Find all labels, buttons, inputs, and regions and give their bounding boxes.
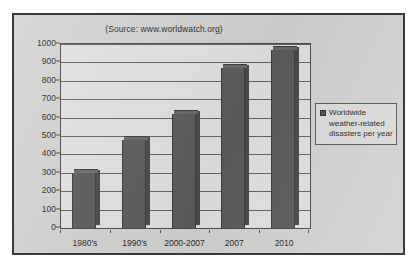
x-axis-tick-mark: [259, 230, 260, 233]
bar-side-face: [196, 111, 200, 225]
bar-top-face: [273, 46, 297, 50]
bar-top-face: [124, 136, 148, 140]
legend-label-line-3: disasters per year: [329, 129, 393, 138]
plot-area: [60, 43, 311, 229]
bar-side-face: [146, 137, 150, 225]
bar-2000-2007: [172, 110, 196, 228]
x-axis-tick-label: 2000-2007: [164, 238, 205, 248]
y-axis-tick-label: 200: [42, 185, 56, 195]
legend-label-line-1: Worldwide: [329, 108, 366, 117]
y-axis: 01002003004005006007008009001000: [14, 43, 60, 230]
y-axis-tick-label: 500: [42, 130, 56, 140]
chart-page: (Source: www.worldwatch.org) 01002003004…: [0, 0, 419, 271]
bar-2010: [271, 46, 295, 228]
legend-square-marker-icon: [320, 110, 326, 116]
y-axis-tick-label: 400: [42, 148, 56, 158]
y-axis-tick-label: 800: [42, 75, 56, 85]
bar-front-face: [172, 114, 196, 228]
x-axis-tick-label: 2007: [225, 238, 244, 248]
chart-title: (Source: www.worldwatch.org): [14, 24, 314, 34]
y-axis-tick-label: 100: [42, 204, 56, 214]
bar-top-face: [174, 110, 198, 114]
chart-frame: (Source: www.worldwatch.org) 01002003004…: [12, 13, 405, 255]
bar-1980-s: [72, 169, 96, 228]
bar-side-face: [245, 65, 249, 225]
y-axis-tick-label: 1000: [37, 38, 56, 48]
x-axis-tick-mark: [110, 230, 111, 233]
x-axis-tick-mark: [308, 230, 309, 233]
x-axis: 1980's1990's2000-200720072010: [60, 230, 311, 256]
legend-label: Worldwideweather-relateddisasters per ye…: [329, 108, 393, 140]
bar-front-face: [122, 140, 146, 228]
x-axis-tick-mark: [60, 230, 61, 233]
x-axis-tick-label: 1980's: [72, 238, 97, 248]
bar-front-face: [221, 68, 245, 228]
x-axis-tick-mark: [160, 230, 161, 233]
bar-top-face: [74, 169, 98, 173]
x-axis-tick-label: 2010: [275, 238, 294, 248]
bar-side-face: [96, 170, 100, 225]
bar-front-face: [72, 173, 96, 228]
x-axis-tick-mark: [209, 230, 210, 233]
chart-legend: Worldwideweather-relateddisasters per ye…: [315, 103, 397, 145]
y-axis-tick-label: 600: [42, 112, 56, 122]
bar-top-face: [223, 64, 247, 68]
y-axis-tick-label: 700: [42, 93, 56, 103]
legend-item: Worldwideweather-relateddisasters per ye…: [320, 108, 393, 140]
y-axis-tick-label: 900: [42, 56, 56, 66]
y-axis-tick-label: 300: [42, 167, 56, 177]
bar-1990-s: [122, 136, 146, 228]
bar-side-face: [295, 47, 299, 225]
bar-front-face: [271, 50, 295, 228]
legend-label-line-2: weather-related: [329, 119, 385, 128]
x-axis-tick-label: 1990's: [122, 238, 147, 248]
bar-2007: [221, 64, 245, 228]
